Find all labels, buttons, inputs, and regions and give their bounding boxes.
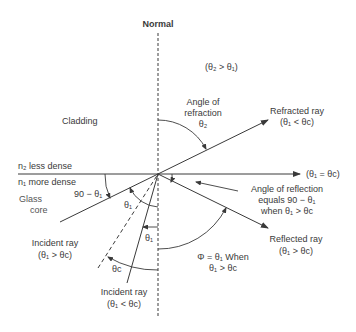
theta-c-label: θc — [112, 264, 122, 274]
refraction-angle-line2: refraction — [184, 108, 222, 118]
cladding-label: Cladding — [62, 116, 98, 126]
angle-90-minus-theta1-label: 90 − θ₁ — [74, 189, 102, 199]
n2-label: n₂ less dense — [18, 161, 72, 171]
refracted-ray-condition: (θ₁ < θc) — [280, 117, 314, 127]
refraction-angle-symbol: θ₂ — [199, 119, 208, 129]
angle-90-minus-theta1-arc — [105, 174, 110, 198]
reflected-ray-condition: (θ₁ > θc) — [279, 246, 313, 256]
theta1-lower-label: θ₁ — [145, 233, 153, 243]
reflection-angle-line1: Angle of reflection — [251, 184, 323, 194]
condition-top-label: (θ₂ > θ₁) — [205, 62, 238, 72]
incident-ray-small-condition: (θ₁ < θc) — [107, 299, 141, 309]
reflected-ray — [158, 174, 268, 228]
critical-angle-ray — [98, 174, 158, 268]
incident-ray-large-condition: (θ₁ > θc) — [38, 250, 72, 260]
core-label: core — [30, 205, 48, 215]
incident-ray-large-title: Incident ray — [32, 238, 79, 248]
reflected-ray-title: Reflected ray — [269, 234, 322, 244]
phi-note-line1: Φ = θ₁ When — [197, 252, 249, 262]
reflection-pointer — [196, 182, 238, 191]
critical-ray-condition: (θ₁ = θc) — [306, 169, 340, 179]
refracted-ray-title: Refracted ray — [270, 106, 324, 116]
theta1-upper-arc — [130, 188, 158, 207]
phi-note-line2: θ₁ > θc — [209, 263, 237, 273]
reflection-angle-line3: when θ₁ > θc — [261, 206, 313, 216]
normal-label: Normal — [142, 19, 173, 29]
n1-label: n₁ more dense — [18, 177, 76, 187]
phi-arc — [158, 208, 226, 249]
reflection-angle-line2: equals 90 − θ₁ — [258, 195, 315, 205]
theta1-upper-label: θ₁ — [124, 200, 132, 210]
incident-ray-small-title: Incident ray — [101, 287, 148, 297]
refracted-ray — [158, 120, 268, 174]
refraction-angle-line1: Angle of — [186, 97, 219, 107]
glass-label: Glass — [19, 194, 42, 204]
